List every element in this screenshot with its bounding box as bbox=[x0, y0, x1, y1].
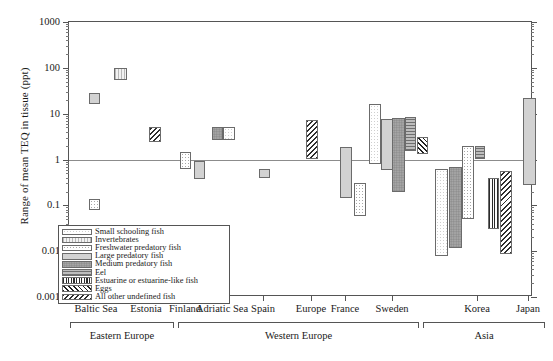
x-axis-label-spain: Spain bbox=[251, 303, 275, 314]
y-minor-tick-right bbox=[531, 192, 534, 193]
y-minor-tick bbox=[66, 219, 69, 220]
group-bracket-asia bbox=[423, 322, 545, 328]
bar-estonia-other bbox=[149, 127, 161, 142]
bar-estonia-invert bbox=[114, 68, 127, 80]
y-minor-tick bbox=[66, 162, 69, 163]
bar-japan-large bbox=[523, 98, 536, 185]
bar-korea-medium bbox=[449, 167, 462, 248]
y-minor-tick bbox=[66, 127, 69, 128]
y-minor-tick-right bbox=[531, 36, 534, 37]
bar-sweden-eggs bbox=[417, 137, 428, 154]
bar-baltic-sea-fresh bbox=[89, 199, 100, 211]
y-minor-tick bbox=[66, 32, 69, 33]
x-tick bbox=[345, 296, 346, 301]
y-minor-tick-right bbox=[531, 75, 534, 76]
bar-korea-fresh bbox=[462, 146, 474, 219]
y-minor-tick-right bbox=[531, 32, 534, 33]
y-tick bbox=[63, 22, 69, 23]
group-label-eastern-europe: Eastern Europe bbox=[90, 330, 154, 341]
x-tick bbox=[263, 296, 264, 301]
legend-item: Estuarine or estuarine-like fish bbox=[62, 277, 226, 285]
legend-item: Medium predatory fish bbox=[62, 260, 226, 268]
y-minor-tick-right bbox=[531, 70, 534, 71]
y-minor-tick bbox=[66, 24, 69, 25]
y-minor-tick bbox=[66, 207, 69, 208]
legend-swatch-fresh bbox=[62, 245, 92, 252]
y-tick-right bbox=[531, 251, 537, 252]
group-bracket-eastern-europe bbox=[70, 322, 174, 328]
y-minor-tick-right bbox=[531, 275, 534, 276]
x-axis-label-adriatic-sea: Adriatic Sea bbox=[196, 303, 248, 314]
y-tick-label: 1000 bbox=[0, 16, 60, 27]
y-minor-tick bbox=[66, 26, 69, 27]
y-tick-right bbox=[531, 68, 537, 69]
bar-sweden-medium bbox=[392, 118, 405, 191]
y-minor-tick-right bbox=[531, 72, 534, 73]
y-minor-tick-right bbox=[531, 269, 534, 270]
y-minor-tick bbox=[66, 29, 69, 30]
y-minor-tick bbox=[66, 40, 69, 41]
x-tick bbox=[477, 296, 478, 301]
bar-sweden-small bbox=[369, 104, 381, 164]
y-minor-tick bbox=[66, 116, 69, 117]
y-minor-tick-right bbox=[531, 210, 534, 211]
legend-swatch-medium bbox=[62, 261, 92, 268]
y-minor-tick-right bbox=[531, 253, 534, 254]
y-tick-right bbox=[531, 297, 537, 298]
y-minor-tick-right bbox=[531, 283, 534, 284]
y-tick-label: 1 bbox=[0, 153, 60, 164]
legend-swatch-small bbox=[62, 229, 92, 236]
legend-label: All other undefined fish bbox=[95, 293, 175, 301]
x-tick bbox=[392, 296, 393, 301]
y-minor-tick-right bbox=[531, 82, 534, 83]
y-minor-tick-right bbox=[531, 237, 534, 238]
bar-finland-large bbox=[194, 161, 205, 179]
y-minor-tick-right bbox=[531, 219, 534, 220]
y-minor-tick bbox=[66, 86, 69, 87]
y-minor-tick-right bbox=[531, 86, 534, 87]
bar-korea-small bbox=[435, 169, 448, 256]
y-tick-label: 100 bbox=[0, 61, 60, 72]
y-minor-tick bbox=[66, 75, 69, 76]
bar-korea-other bbox=[500, 171, 512, 254]
y-minor-tick bbox=[66, 170, 69, 171]
bar-finland-fresh bbox=[180, 152, 191, 169]
x-axis-label-france: France bbox=[331, 303, 360, 314]
y-minor-tick-right bbox=[531, 261, 534, 262]
y-minor-tick bbox=[66, 216, 69, 217]
y-minor-tick-right bbox=[531, 229, 534, 230]
y-minor-tick bbox=[66, 82, 69, 83]
x-axis-label-korea: Korea bbox=[464, 303, 490, 314]
y-minor-tick bbox=[66, 100, 69, 101]
chart-figure: Range of mean TEQ in tissue (ppt) 100010… bbox=[0, 0, 553, 361]
group-bracket-western-europe bbox=[178, 322, 419, 328]
group-label-western-europe: Western Europe bbox=[265, 330, 332, 341]
y-tick-right bbox=[531, 22, 537, 23]
legend-label: Medium predatory fish bbox=[95, 260, 172, 268]
bar-korea-eel bbox=[475, 146, 485, 159]
y-minor-tick bbox=[66, 138, 69, 139]
y-minor-tick bbox=[66, 164, 69, 165]
y-minor-tick bbox=[66, 78, 69, 79]
bar-sweden-eel bbox=[405, 117, 416, 152]
bar-adriatic-sea-small bbox=[223, 127, 235, 140]
y-minor-tick-right bbox=[531, 40, 534, 41]
y-minor-tick-right bbox=[531, 24, 534, 25]
y-minor-tick bbox=[66, 54, 69, 55]
y-tick-label: 0.1 bbox=[0, 199, 60, 210]
x-tick bbox=[311, 296, 312, 301]
y-minor-tick-right bbox=[531, 46, 534, 47]
y-minor-tick-right bbox=[531, 78, 534, 79]
legend-item: Small schooling fish bbox=[62, 228, 226, 236]
legend-swatch-eggs bbox=[62, 285, 92, 292]
bar-baltic-sea-large bbox=[89, 93, 100, 104]
y-minor-tick-right bbox=[531, 265, 534, 266]
y-minor-tick-right bbox=[531, 54, 534, 55]
x-axis-label-estonia: Estonia bbox=[130, 303, 162, 314]
legend-item: All other undefined fish bbox=[62, 293, 226, 301]
x-tick bbox=[528, 296, 529, 301]
group-label-asia: Asia bbox=[474, 330, 493, 341]
bar-spain-large bbox=[259, 169, 270, 178]
y-minor-tick-right bbox=[531, 207, 534, 208]
bar-france-large bbox=[340, 147, 352, 198]
